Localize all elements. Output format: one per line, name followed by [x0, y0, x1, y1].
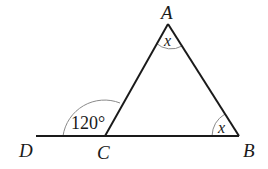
point-label-d: D — [18, 140, 33, 161]
segment-ab — [168, 24, 239, 136]
segment-ca — [105, 24, 168, 136]
point-label-b: B — [243, 140, 255, 161]
angle-label-b: x — [217, 119, 225, 136]
point-label-a: A — [159, 2, 173, 23]
angle-label-exterior-c: 120° — [71, 113, 105, 133]
angle-label-a: x — [163, 32, 171, 49]
geometry-diagram: A B C D 120° x x — [0, 0, 268, 169]
point-label-c: C — [97, 142, 110, 163]
